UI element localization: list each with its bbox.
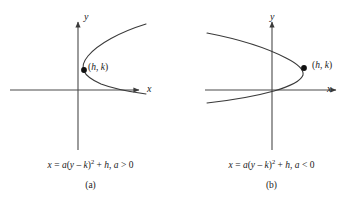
caption-b: (b) [181, 180, 362, 191]
parabola-curve [207, 33, 303, 103]
vertex-point [81, 67, 87, 73]
eq-b-equals: = [233, 160, 243, 170]
eq-a-plus: + [94, 160, 104, 170]
parabola-curve [83, 24, 146, 94]
vertex-label: (h, k) [88, 63, 108, 73]
vertex-label-close: ) [105, 62, 108, 72]
panel-a-graph [0, 0, 181, 160]
eq-b-minus: – [255, 160, 265, 170]
eq-a-condition: > 0 [119, 160, 134, 170]
x-axis-label: x [147, 84, 151, 94]
vertex-label: (h, k) [312, 61, 332, 71]
eq-a-minus: – [74, 160, 84, 170]
vertex-point [301, 65, 307, 71]
vertex-label-close: ) [329, 60, 332, 70]
x-axis-label: x [327, 84, 331, 94]
eq-a-equals: = [52, 160, 62, 170]
eq-b-plus: + [275, 160, 285, 170]
panel-a: y x (h, k) x = a(y – k)2 + h, a > 0 (a) [0, 0, 181, 205]
y-axis-label: y [84, 12, 88, 22]
y-axis-label: y [270, 12, 274, 22]
equation-b: x = a(y – k)2 + h, a < 0 [181, 160, 362, 171]
parabola-figure: y x (h, k) x = a(y – k)2 + h, a > 0 (a) [0, 0, 363, 205]
eq-b-condition: < 0 [300, 160, 315, 170]
panel-b-graph [181, 0, 362, 160]
panel-b: y x (h, k) x = a(y – k)2 + h, a < 0 (b) [181, 0, 362, 205]
equation-a: x = a(y – k)2 + h, a > 0 [0, 160, 181, 171]
caption-a: (a) [0, 180, 181, 191]
